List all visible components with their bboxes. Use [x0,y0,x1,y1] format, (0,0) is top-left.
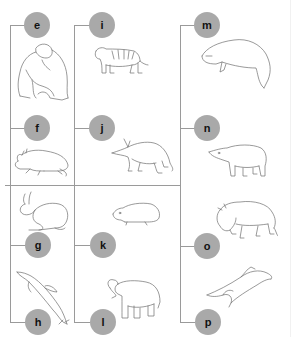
node-i: i [89,12,115,38]
node-m: m [194,12,220,38]
node-label: i [100,19,103,31]
connector-m [180,25,195,26]
node-label: m [202,19,212,31]
tapir-illustration [207,144,269,180]
connector-j [74,128,90,129]
node-label: e [34,19,40,31]
dolphin-illustration [15,268,70,326]
connector-g [10,245,26,246]
node-label: j [100,122,103,134]
animal-classification-diagram: e f g h i j k l m n o p [0,0,293,337]
connector-p [180,322,195,323]
node-label: f [35,122,39,134]
node-label: p [205,316,212,328]
node-label: o [204,240,211,252]
chimpanzee-illustration [12,40,72,105]
elephant-illustration [104,278,162,320]
rodent-illustration [10,147,72,177]
bracket-line-col-3 [180,25,181,323]
connector-i [74,25,90,26]
bracket-line-col-2 [74,25,75,323]
node-p: p [195,309,221,335]
connector-o [180,246,195,247]
node-label: n [204,122,211,134]
right-edge-line [290,0,291,337]
node-k: k [90,232,116,258]
section-divider [5,185,180,186]
node-label: g [35,239,42,251]
node-n: n [194,115,220,141]
connector-k [74,245,90,246]
bison-illustration [214,200,278,242]
tiger-illustration [94,45,150,77]
aardvark-illustration [110,137,175,177]
connector-l [74,322,90,323]
hyrax-illustration [111,202,161,226]
node-e: e [24,12,50,38]
node-label: k [100,239,106,251]
node-g: g [25,232,51,258]
node-f: f [24,115,50,141]
manatee-illustration [200,38,275,90]
rabbit-illustration [15,190,70,232]
flying-lemur-illustration [205,263,275,308]
connector-n [180,128,195,129]
